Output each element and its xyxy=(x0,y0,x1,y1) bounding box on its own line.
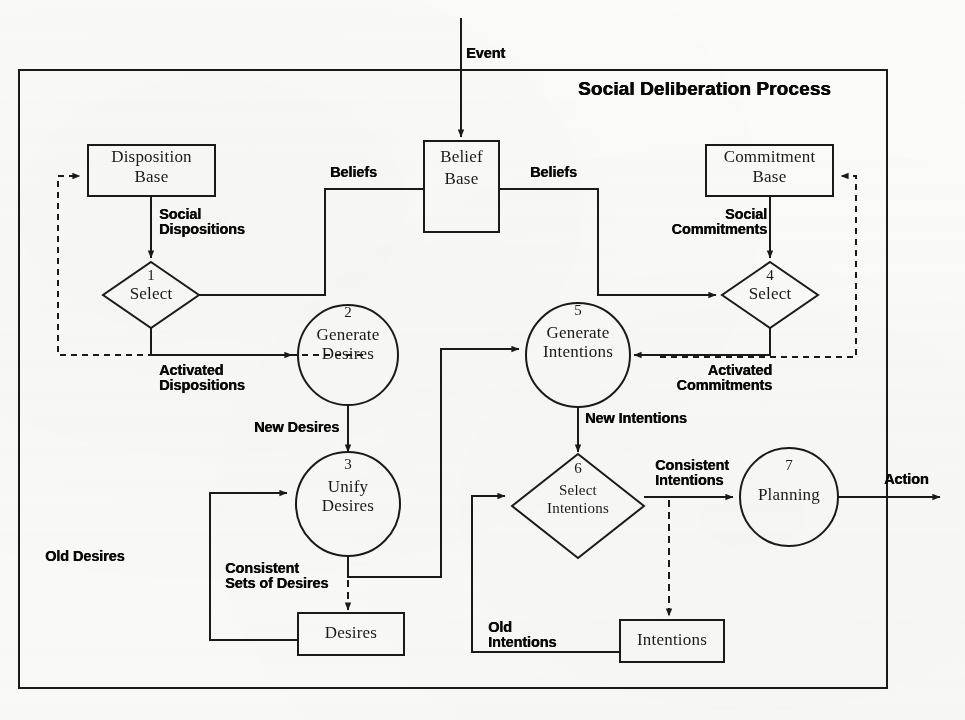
edge-label-activated-dispositions-line1: Activated xyxy=(159,362,223,378)
node-label-select-commitments: Select xyxy=(735,285,805,303)
edge-label-beliefs-left: Beliefs xyxy=(330,164,377,180)
edge-label-social-commitments-line2: Commitments xyxy=(659,221,767,237)
edge-label-old-intentions-line2: Intentions xyxy=(488,634,556,650)
node-label-commitment-base-line1: Commitment xyxy=(706,148,833,166)
node-number-6: 6 xyxy=(548,461,608,477)
edge-label-activated-dispositions-line2: Dispositions xyxy=(159,377,245,393)
edge-label-social-dispositions-line1: Social xyxy=(159,206,201,222)
edge-label-consistent-intentions-line1: Consistent xyxy=(655,457,729,473)
edge-beliefs-left xyxy=(178,189,424,295)
node-number-5: 5 xyxy=(548,303,608,319)
edge-label-social-dispositions-line2: Dispositions xyxy=(159,221,245,237)
node-label-belief-base-line1: Belief xyxy=(424,148,499,166)
edge-label-action: Action xyxy=(884,471,929,487)
edge-label-old-intentions-line1: Old xyxy=(488,619,512,635)
node-label-generate-desires-line2: Desires xyxy=(298,345,398,363)
diagram-canvas: Social Deliberation Process Event Action… xyxy=(0,0,965,720)
edge-label-consistent-sets-of-desires-line2: Sets of Desires xyxy=(225,575,328,591)
edge-label-new-intentions: New Intentions xyxy=(585,410,687,426)
edge-label-social-commitments-line1: Social xyxy=(679,206,767,222)
node-label-unify-desires-line1: Unify xyxy=(298,478,398,496)
node-number-2: 2 xyxy=(318,305,378,321)
edge-label-new-desires: New Desires xyxy=(254,419,339,435)
diagram-graphics xyxy=(0,0,965,720)
edge-activated-commitments xyxy=(634,328,770,355)
node-number-3: 3 xyxy=(318,457,378,473)
node-label-generate-intentions-line1: Generate xyxy=(522,324,634,342)
page-title: Social Deliberation Process xyxy=(578,79,831,99)
node-label-intentions-store: Intentions xyxy=(620,631,724,649)
node-label-select-dispositions: Select xyxy=(116,285,186,303)
edge-label-beliefs-right: Beliefs xyxy=(530,164,577,180)
edge-label-activated-commitments-line1: Activated xyxy=(676,362,772,378)
node-label-desires-store: Desires xyxy=(298,624,404,642)
edge-label-activated-commitments-line2: Commitments xyxy=(656,377,772,393)
node-label-select-intentions-line2: Intentions xyxy=(528,501,628,517)
edge-activated-dispositions xyxy=(151,328,292,355)
node-label-disposition-base-line1: Disposition xyxy=(88,148,215,166)
node-label-generate-desires-line1: Generate xyxy=(298,326,398,344)
node-number-7: 7 xyxy=(759,458,819,474)
node-label-commitment-base-line2: Base xyxy=(706,168,833,186)
node-label-belief-base-line2: Base xyxy=(424,170,499,188)
node-label-planning: Planning xyxy=(739,486,839,504)
edge-label-consistent-sets-of-desires-line1: Consistent xyxy=(225,560,299,576)
node-number-4: 4 xyxy=(740,268,800,284)
edge-label-consistent-intentions-line2: Intentions xyxy=(655,472,723,488)
node-label-disposition-base-line2: Base xyxy=(88,168,215,186)
node-number-1: 1 xyxy=(121,268,181,284)
node-label-select-intentions-line1: Select xyxy=(528,483,628,499)
edge-label-old-desires: Old Desires xyxy=(45,548,125,564)
edge-beliefs-right xyxy=(499,189,716,295)
node-label-unify-desires-line2: Desires xyxy=(298,497,398,515)
edge-label-event: Event xyxy=(466,45,505,61)
node-label-generate-intentions-line2: Intentions xyxy=(522,343,634,361)
edge-commitments-feedback xyxy=(660,176,856,357)
